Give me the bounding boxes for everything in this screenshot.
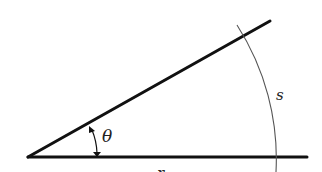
angle-arrowhead-top-icon	[89, 126, 95, 133]
arc-length-diagram: θ s r	[0, 0, 322, 172]
radius-label-r: r	[157, 164, 165, 172]
theta-label: θ	[102, 126, 112, 146]
arc-s	[237, 25, 276, 172]
upper-ray	[28, 21, 270, 157]
arc-label-s: s	[276, 86, 284, 104]
angle-arrow	[92, 130, 97, 153]
